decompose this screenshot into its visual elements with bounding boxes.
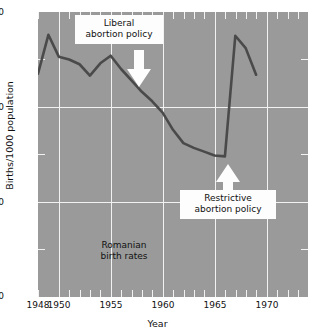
liberal-policy-line1: Liberal xyxy=(80,18,158,29)
restrictive-policy-callout: Restrictive abortion policy xyxy=(180,190,276,219)
xtick-label-1960: 1960 xyxy=(145,300,181,310)
series-inline-label-line2: birth rates xyxy=(82,251,166,262)
data-series-line xyxy=(38,12,308,297)
xtick-label-1965: 1965 xyxy=(197,300,233,310)
ytick-label-0: 0 xyxy=(0,292,4,301)
x-axis-title: Year xyxy=(0,318,315,329)
liberal-policy-arrow-icon xyxy=(126,50,152,88)
restrictive-policy-line2: abortion policy xyxy=(185,204,271,215)
xtick-label-1970: 1970 xyxy=(249,300,285,310)
series-inline-label-line1: Romanian xyxy=(82,240,166,251)
chart-figure: Romanian birth rates Liberal abortion po… xyxy=(0,0,315,335)
xtick-label-1950: 1950 xyxy=(41,300,77,310)
y-axis-title: Births/1000 population xyxy=(4,41,15,231)
liberal-policy-line2: abortion policy xyxy=(80,29,158,40)
plot-area: Romanian birth rates xyxy=(38,12,308,297)
ytick-label-30: 30 xyxy=(0,8,4,17)
xtick-label-1955: 1955 xyxy=(93,300,129,310)
series-inline-label: Romanian birth rates xyxy=(82,240,166,262)
liberal-policy-callout: Liberal abortion policy xyxy=(75,15,163,44)
restrictive-policy-line1: Restrictive xyxy=(185,193,271,204)
